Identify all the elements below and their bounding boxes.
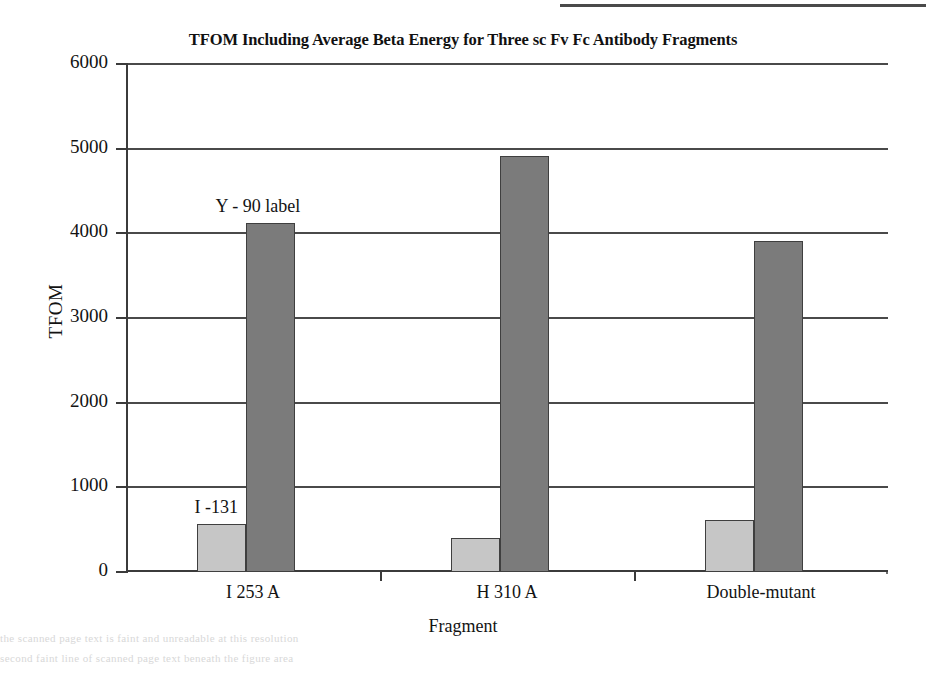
- y-axis-tick: [116, 148, 128, 150]
- bar-y90: [500, 156, 549, 572]
- scan-artifact-line-1: the scanned page text is faint and unrea…: [0, 632, 926, 644]
- bar-i131: [451, 538, 500, 572]
- chart-title: TFOM Including Average Beta Energy for T…: [0, 30, 926, 50]
- bar-y90: [754, 241, 803, 572]
- bar-i131: [197, 524, 246, 572]
- annotation-i131-label: I -131: [192, 497, 242, 518]
- y-axis-tick: [116, 317, 128, 319]
- y-axis-tick: [116, 63, 128, 65]
- y-axis-tick: [116, 232, 128, 234]
- x-axis-tick-label: H 310 A: [387, 582, 627, 603]
- y-axis-tick: [116, 571, 128, 573]
- x-axis-tick: [380, 572, 382, 581]
- gridline: [128, 63, 888, 65]
- page-canvas: TFOM Including Average Beta Energy for T…: [0, 0, 926, 678]
- page-top-rule: [560, 4, 926, 7]
- y-axis-tick: [116, 402, 128, 404]
- y-axis-tick: [116, 486, 128, 488]
- y-axis-tick-label: 0: [0, 559, 108, 581]
- gridline: [128, 148, 888, 150]
- bar-y90: [246, 223, 295, 572]
- y-axis-tick-label: 5000: [0, 136, 108, 158]
- x-axis-tick-label: Double-mutant: [641, 582, 881, 603]
- y-axis-tick-label: 6000: [0, 51, 108, 73]
- annotation-y90-label: Y - 90 label: [213, 196, 304, 217]
- y-axis-tick-label: 1000: [0, 474, 108, 496]
- y-axis-tick-label: 3000: [0, 305, 108, 327]
- x-axis-tick-label: I 253 A: [133, 582, 373, 603]
- x-axis-tick: [634, 572, 636, 581]
- bar-i131: [705, 520, 754, 572]
- y-axis-tick-label: 2000: [0, 390, 108, 412]
- scan-artifact-line-2: second faint line of scanned page text b…: [0, 652, 926, 664]
- y-axis-tick-label: 4000: [0, 220, 108, 242]
